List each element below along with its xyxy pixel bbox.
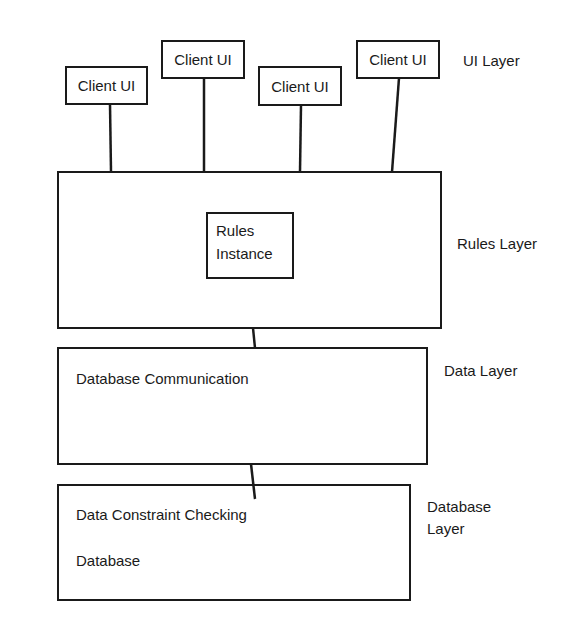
client-ui-box-1: Client UI <box>65 66 148 105</box>
rules-layer-label: Rules Layer <box>457 233 537 255</box>
database-layer-label-line2: Layer <box>427 518 491 540</box>
client-ui-box-3: Client UI <box>258 66 342 106</box>
connector-client-3 <box>300 105 301 172</box>
database-text: Database <box>76 552 140 569</box>
database-communication-text: Database Communication <box>76 370 249 387</box>
client-ui-label: Client UI <box>78 77 136 94</box>
connector-rules-data <box>253 328 255 348</box>
rules-instance-line1: Rules <box>216 222 254 239</box>
rules-instance-line2: Instance <box>216 245 273 262</box>
rules-instance-box: Rules Instance <box>206 212 294 279</box>
database-layer-box: Data Constraint Checking Database <box>57 484 411 601</box>
client-ui-box-2: Client UI <box>161 40 245 79</box>
connector-client-4 <box>392 78 399 172</box>
data-layer-box: Database Communication <box>57 347 428 465</box>
client-ui-label: Client UI <box>271 78 329 95</box>
client-ui-label: Client UI <box>174 51 232 68</box>
client-ui-box-4: Client UI <box>356 40 440 79</box>
database-layer-label-line1: Database <box>427 496 491 518</box>
data-layer-label: Data Layer <box>444 360 517 382</box>
ui-layer-label: UI Layer <box>463 50 520 72</box>
data-constraint-checking-text: Data Constraint Checking <box>76 506 247 523</box>
client-ui-label: Client UI <box>369 51 427 68</box>
connector-client-1 <box>110 104 111 172</box>
database-layer-label: Database Layer <box>427 496 491 540</box>
